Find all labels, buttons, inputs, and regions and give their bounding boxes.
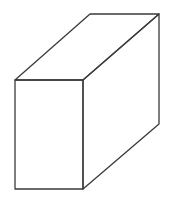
side-face	[83, 14, 159, 189]
front-face	[15, 80, 83, 189]
top-face	[15, 14, 159, 80]
box-diagram	[0, 0, 172, 201]
diagram-canvas	[0, 0, 172, 201]
